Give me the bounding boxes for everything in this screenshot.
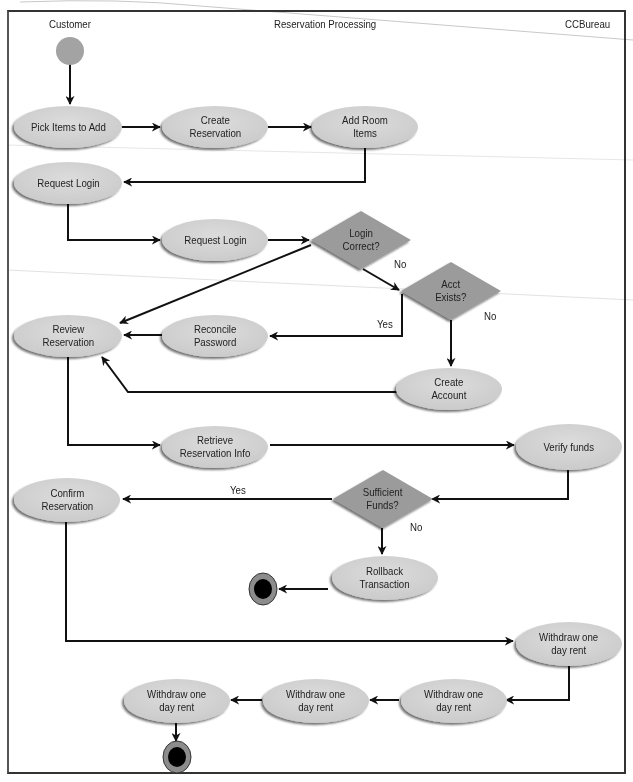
decision-label: Login Correct?	[342, 227, 379, 253]
edge-login-correct-no-to-acct-exists	[363, 269, 399, 290]
activity-label: Withdraw one day rent	[147, 688, 206, 714]
initial-node	[56, 37, 84, 65]
decision-label: Sufficient Funds?	[363, 486, 403, 512]
guard-funds-yes: Yes	[230, 484, 246, 496]
activity-create-account: Create Account	[396, 368, 502, 410]
activity-verify-funds: Verify funds	[516, 424, 622, 470]
activity-rollback-transaction: Rollback Transaction	[332, 556, 438, 600]
guard-acct-no: No	[484, 310, 496, 322]
edge-withdraw-1-to-2	[506, 666, 569, 700]
guard-login-no: No	[394, 258, 406, 270]
activity-label: Request Login	[37, 177, 99, 190]
activity-request-login-customer: Request Login	[14, 162, 122, 204]
activity-withdraw-one-day-rent-3: Withdraw one day rent	[263, 679, 369, 723]
final-nodes	[163, 573, 277, 773]
activity-label: Create Account	[432, 376, 467, 402]
activity-label: Retrieve Reservation Info	[180, 434, 250, 460]
activity-retrieve-reservation-info: Retrieve Reservation Info	[162, 426, 268, 468]
activity-label: Withdraw one day rent	[286, 688, 345, 714]
activity-withdraw-one-day-rent-1: Withdraw one day rent	[516, 622, 622, 666]
activity-label: Create Reservation	[189, 114, 241, 140]
decision-sufficient-funds: Sufficient Funds?	[333, 477, 433, 521]
activity-review-reservation: Review Reservation	[14, 315, 122, 357]
decision-acct-exists: Acct Exists?	[401, 269, 501, 313]
activity-withdraw-one-day-rent-2: Withdraw one day rent	[401, 679, 507, 723]
edge-confirm-to-withdraw-1	[66, 521, 513, 641]
activity-label: Request Login	[184, 234, 246, 247]
activity-withdraw-one-day-rent-4: Withdraw one day rent	[124, 679, 230, 723]
edge-review-to-retrieve	[68, 357, 160, 445]
activity-label: Review Reservation	[42, 323, 94, 349]
activity-create-reservation: Create Reservation	[162, 106, 268, 148]
activity-label: Rollback Transaction	[360, 565, 410, 591]
decision-login-correct: Login Correct?	[311, 218, 411, 262]
edge-request-login-to-processing	[68, 204, 160, 240]
edge-verify-to-sufficient-funds	[432, 470, 568, 499]
activity-diagram: Customer Reservation Processing CCBureau	[0, 0, 633, 782]
activity-label: Verify funds	[544, 441, 595, 454]
decision-label: Acct Exists?	[435, 278, 466, 304]
activity-label: Pick Items to Add	[31, 121, 106, 134]
activity-label: Withdraw one day rent	[539, 631, 598, 657]
activity-request-login-processing: Request Login	[162, 219, 268, 261]
edge-create-account-to-review	[102, 357, 398, 392]
activity-reconcile-password: Reconcile Password	[162, 315, 268, 357]
activity-label: Confirm Reservation	[41, 487, 93, 513]
activity-label: Add Room Items	[342, 114, 388, 140]
guard-funds-no: No	[410, 521, 422, 533]
activity-pick-items-to-add: Pick Items to Add	[14, 106, 122, 148]
guard-acct-yes: Yes	[377, 318, 393, 330]
edge-add-room-to-request-login	[124, 148, 365, 182]
activity-confirm-reservation: Confirm Reservation	[14, 478, 120, 522]
activity-label: Withdraw one day rent	[424, 688, 483, 714]
activity-label: Reconcile Password	[194, 323, 237, 349]
activity-add-room-items: Add Room Items	[312, 106, 418, 148]
